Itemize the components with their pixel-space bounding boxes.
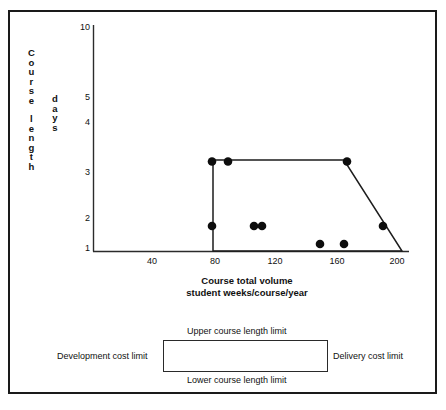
legend-development-cost-limit: Development cost limit <box>57 351 148 361</box>
data-point <box>258 222 267 231</box>
data-point <box>340 240 349 249</box>
data-point <box>224 157 233 166</box>
data-point <box>379 222 388 231</box>
x-axis-title: Course total volume student weeks/course… <box>97 275 397 299</box>
data-point <box>250 222 259 231</box>
data-point <box>316 240 325 249</box>
legend-upper-course-length-limit: Upper course length limit <box>187 326 287 336</box>
legend-delivery-cost-limit: Delivery cost limit <box>333 351 403 361</box>
x-axis-title-line2: student weeks/course/year <box>97 287 397 299</box>
x-axis-title-line1: Course total volume <box>97 275 397 287</box>
feasible-region-polygon <box>213 160 402 251</box>
figure-root: C o u r s e l e n g t h d a y s 10 5 4 3… <box>0 0 446 410</box>
data-point <box>208 157 217 166</box>
data-point <box>208 222 217 231</box>
limits-box <box>163 340 328 372</box>
data-point <box>343 157 352 166</box>
legend-lower-course-length-limit: Lower course length limit <box>187 375 287 385</box>
